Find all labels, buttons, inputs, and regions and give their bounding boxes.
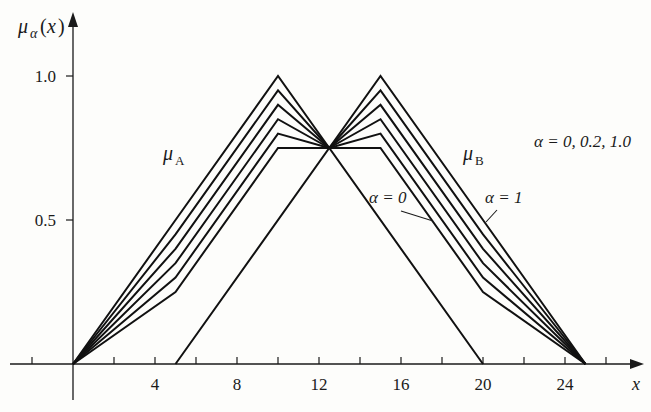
alpha-1-label: α = 1 — [485, 188, 522, 207]
membership-curves — [73, 76, 586, 364]
alpha-range-label: α = 0, 0.2, 1.0 — [534, 132, 631, 151]
mu-b-label: μ B — [462, 142, 484, 168]
fuzzy-membership-chart: 4812162024 1.0 0.5 μ α ( x ) x μ A μ B α… — [0, 0, 651, 412]
svg-text:μ: μ — [17, 15, 28, 38]
svg-text:x: x — [46, 15, 56, 37]
x-axis-arrow-icon — [630, 359, 644, 369]
y-axis-label: μ α ( x ) — [17, 15, 65, 41]
svg-text:(: ( — [40, 15, 47, 38]
x-axis — [0, 357, 644, 369]
x-tick-label: 24 — [557, 375, 575, 394]
svg-text:μ: μ — [462, 142, 473, 165]
x-tick-labels: 4812162024 — [151, 375, 574, 394]
y-tick-label-1: 1.0 — [35, 67, 56, 86]
y-axis — [66, 12, 78, 400]
svg-text:α: α — [30, 26, 38, 41]
svg-text:A: A — [175, 153, 185, 168]
x-tick-label: 20 — [475, 375, 492, 394]
svg-text:): ) — [58, 15, 65, 38]
y-tick-label-0-5: 0.5 — [35, 211, 56, 230]
x-tick-label: 16 — [393, 375, 410, 394]
chart-svg: 4812162024 1.0 0.5 μ α ( x ) x μ A μ B α… — [0, 0, 651, 412]
y-axis-arrow-icon — [68, 12, 78, 27]
membership-curve — [176, 148, 484, 364]
svg-text:μ: μ — [162, 142, 173, 165]
x-tick-label: 8 — [233, 375, 242, 394]
x-axis-label: x — [631, 374, 640, 394]
alpha-1-pointer — [486, 210, 497, 222]
alpha-0-label: α = 0 — [369, 188, 407, 207]
x-tick-label: 12 — [311, 375, 328, 394]
mu-a-label: μ A — [162, 142, 185, 168]
svg-text:B: B — [475, 153, 484, 168]
x-tick-label: 4 — [151, 375, 160, 394]
